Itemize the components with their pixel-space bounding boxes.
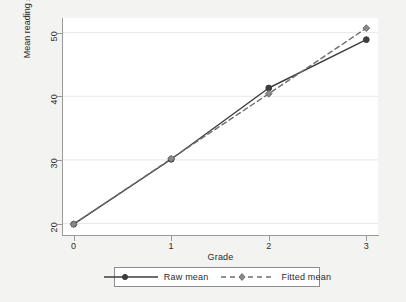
y-tick-label-30: 30 bbox=[49, 158, 59, 168]
chart-legend: Raw mean Fitted mean bbox=[114, 267, 320, 287]
data-point-raw-mean-3 bbox=[363, 37, 369, 43]
legend-label-raw-mean: Raw mean bbox=[164, 272, 209, 282]
plot-area bbox=[62, 18, 378, 235]
plot-canvas bbox=[62, 18, 378, 235]
series-lines-group bbox=[74, 28, 367, 224]
series-line-raw-mean bbox=[74, 40, 367, 225]
y-tick-label-50: 50 bbox=[49, 31, 59, 41]
x-tick-label-2: 2 bbox=[257, 241, 281, 251]
chart-figure: 20304050 0123 Mean reading score Grade R… bbox=[0, 0, 406, 302]
x-tick-label-0: 0 bbox=[62, 241, 86, 251]
dashed-line-diamond-marker-icon bbox=[220, 272, 276, 282]
x-axis-title: Grade bbox=[62, 252, 379, 262]
series-line-fitted-mean bbox=[74, 28, 367, 224]
solid-line-circle-marker-icon bbox=[103, 272, 159, 282]
x-axis-line bbox=[62, 235, 379, 236]
gridlines-group bbox=[62, 33, 378, 224]
x-tick-label-1: 1 bbox=[159, 241, 183, 251]
y-tick-label-40: 40 bbox=[49, 94, 59, 104]
legend-label-fitted-mean: Fitted mean bbox=[281, 272, 331, 282]
x-tick-label-3: 3 bbox=[354, 241, 378, 251]
y-tick-label-20: 20 bbox=[49, 222, 59, 232]
y-axis-title: Mean reading score bbox=[22, 0, 36, 127]
legend-entry-raw-mean[interactable]: Raw mean bbox=[103, 272, 209, 282]
legend-entry-fitted-mean[interactable]: Fitted mean bbox=[220, 272, 331, 282]
y-axis-line bbox=[62, 18, 63, 236]
